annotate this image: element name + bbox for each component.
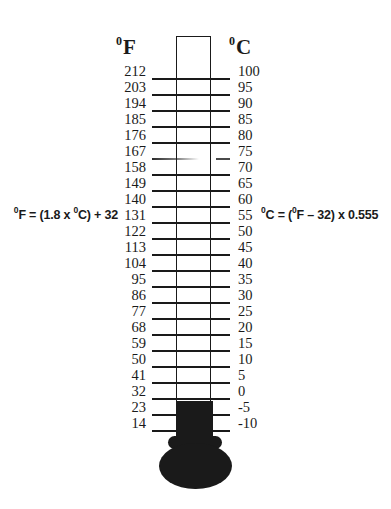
celsius-value: 80: [238, 128, 282, 142]
fahrenheit-value: 50: [94, 352, 146, 366]
mercury-fill: [176, 401, 213, 441]
fahrenheit-value: 23: [94, 400, 146, 414]
celsius-value: 95: [238, 80, 282, 94]
celsius-value: 85: [238, 112, 282, 126]
fahrenheit-value: 32: [94, 384, 146, 398]
fahrenheit-header-letter: F: [123, 35, 136, 59]
celsius-value: -5: [238, 400, 282, 414]
celsius-value: -10: [238, 416, 282, 430]
thermometer-tube: [176, 36, 211, 439]
fahrenheit-value: 14: [94, 416, 146, 430]
celsius-value: 50: [238, 224, 282, 238]
celsius-value: 0: [238, 384, 282, 398]
celsius-header-superscript: 0: [229, 34, 235, 48]
fahrenheit-value: 176: [94, 128, 146, 142]
celsius-value: 25: [238, 304, 282, 318]
fahrenheit-value: 131: [94, 208, 146, 222]
celsius-value: 100: [238, 64, 282, 78]
fahrenheit-formula-part1: F = (1.8 x: [18, 208, 73, 222]
thermometer-bulb: [159, 443, 232, 490]
celsius-formula-sup2: 0: [292, 205, 297, 215]
fahrenheit-value: 185: [94, 112, 146, 126]
fahrenheit-value: 68: [94, 320, 146, 334]
celsius-value: 10: [238, 352, 282, 366]
fahrenheit-value: 104: [94, 256, 146, 270]
fahrenheit-value: 113: [94, 240, 146, 254]
fahrenheit-value: 212: [94, 64, 146, 78]
celsius-value: 90: [238, 96, 282, 110]
celsius-value: 65: [238, 176, 282, 190]
fahrenheit-value: 95: [94, 272, 146, 286]
scale-tick-dash: [216, 158, 230, 160]
celsius-value: 75: [238, 144, 282, 158]
fahrenheit-header-superscript: 0: [116, 34, 122, 48]
celsius-value: 20: [238, 320, 282, 334]
fahrenheit-value: 59: [94, 336, 146, 350]
fahrenheit-value: 194: [94, 96, 146, 110]
thermometer-conversion-diagram: 0F 0C 0F = (1.8 x 0C) + 32 0C = (0F – 32…: [0, 0, 391, 509]
celsius-header: 0C: [230, 32, 251, 58]
celsius-value: 55: [238, 208, 282, 222]
celsius-formula-part2: F – 32) x 0.555: [297, 208, 379, 222]
fahrenheit-value: 149: [94, 176, 146, 190]
fahrenheit-header: 0F: [117, 32, 136, 58]
celsius-value: 60: [238, 192, 282, 206]
fahrenheit-value: 86: [94, 288, 146, 302]
fahrenheit-value: 203: [94, 80, 146, 94]
fahrenheit-formula-sup1: 0: [14, 205, 19, 215]
celsius-header-letter: C: [236, 35, 251, 59]
celsius-value: 30: [238, 288, 282, 302]
fahrenheit-value: 167: [94, 144, 146, 158]
celsius-value: 40: [238, 256, 282, 270]
fahrenheit-formula-sup2: 0: [74, 205, 79, 215]
celsius-value: 5: [238, 368, 282, 382]
fahrenheit-value: 122: [94, 224, 146, 238]
fahrenheit-value: 140: [94, 192, 146, 206]
celsius-value: 35: [238, 272, 282, 286]
fahrenheit-value: 41: [94, 368, 146, 382]
fahrenheit-value: 158: [94, 160, 146, 174]
fahrenheit-value: 77: [94, 304, 146, 318]
celsius-value: 15: [238, 336, 282, 350]
celsius-value: 70: [238, 160, 282, 174]
celsius-value: 45: [238, 240, 282, 254]
